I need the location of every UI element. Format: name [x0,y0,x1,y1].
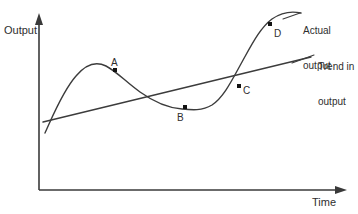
y-axis-label: Output [4,24,37,37]
point-marker-d [268,22,272,26]
point-marker-b [183,105,187,109]
series-label-trend-output: Trend in output [318,38,354,130]
point-label-c: C [243,85,250,97]
point-marker-c [237,84,241,88]
arrow-right-icon [335,186,347,194]
series-label-actual-output-line1: Actual [303,25,331,37]
series-label-trend-output-line2: output [318,96,354,108]
point-label-d: D [274,28,281,40]
actual-output-curve [45,12,301,133]
point-marker-a [113,68,117,72]
actual-output-leader-line [283,13,300,19]
series-label-trend-output-line1: Trend in [318,61,354,73]
x-axis-label: Time [312,196,336,209]
point-label-a: A [111,57,118,69]
point-label-b: B [177,112,184,124]
business-cycle-diagram: Output Time A B C D Actual output Trend … [0,0,358,214]
y-axis [35,13,43,190]
x-axis [39,186,347,194]
